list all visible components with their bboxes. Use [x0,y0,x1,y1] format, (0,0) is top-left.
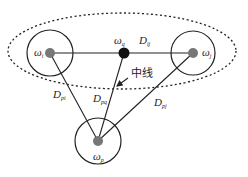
label-omega-p: ωp [93,151,104,163]
median-annotation-arrow [117,78,128,86]
label-omega-q: ωq [114,35,125,47]
median-line-annotation: 中线 [131,68,153,79]
label-omega-j: ωj [202,47,211,59]
label-d-pj: Dpj [154,97,167,109]
label-d-pq: Dpq [93,93,107,105]
node-i-dot [45,48,55,58]
label-d-ij: Dij [139,35,150,47]
node-j-dot [188,48,198,58]
label-d-pi: Dpi [53,89,66,101]
median-line-diagram [0,0,248,177]
node-q-dot [119,48,130,59]
node-p-dot [93,136,103,146]
label-omega-i: ωi [34,47,43,59]
